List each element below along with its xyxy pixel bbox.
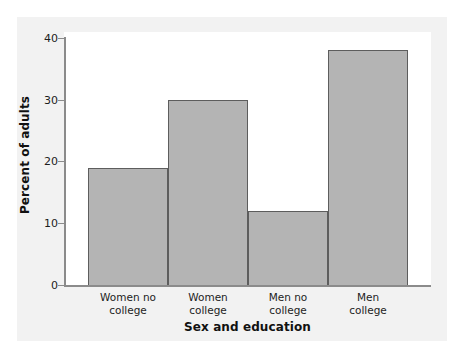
- bar-women-no-college[interactable]: [88, 168, 168, 286]
- x-tick-label-line-2: college: [168, 304, 248, 317]
- y-tick-label-0: 0: [12, 280, 58, 291]
- y-tick-group-0: 0: [0, 280, 58, 291]
- y-tick-group-10: 10: [0, 218, 58, 229]
- y-axis-line: [64, 37, 66, 286]
- x-tick-label-women-college: Women college: [168, 291, 248, 317]
- x-tick-label-women-no-college: Women no college: [88, 291, 168, 317]
- x-tick-label-line-1: Men: [328, 291, 408, 304]
- y-tick-mark-30: [58, 100, 64, 101]
- x-tick-label-line-2: college: [88, 304, 168, 317]
- bar-chart-figure: 40 30 20 10 0 Percent of adults Women no…: [0, 0, 464, 360]
- x-tick-label-line-1: Men no: [248, 291, 328, 304]
- x-tick-label-line-1: Women no: [88, 291, 168, 304]
- y-tick-label-10: 10: [12, 218, 58, 229]
- y-tick-label-40: 40: [12, 33, 58, 44]
- x-tick-label-men-college: Men college: [328, 291, 408, 317]
- bar-women-college[interactable]: [168, 100, 248, 286]
- x-tick-label-men-no-college: Men no college: [248, 291, 328, 317]
- bar-men-no-college[interactable]: [248, 211, 328, 286]
- bar-men-college[interactable]: [328, 50, 408, 286]
- y-tick-mark-10: [58, 223, 64, 224]
- x-tick-label-line-2: college: [248, 304, 328, 317]
- y-tick-group-40: 40: [0, 33, 58, 44]
- x-axis-line: [64, 285, 431, 287]
- y-tick-mark-40: [58, 38, 64, 39]
- x-tick-label-line-2: college: [328, 304, 408, 317]
- x-tick-label-line-1: Women: [168, 291, 248, 304]
- y-axis-title: Percent of adults: [18, 95, 32, 215]
- y-tick-mark-20: [58, 161, 64, 162]
- x-axis-title: Sex and education: [64, 320, 431, 334]
